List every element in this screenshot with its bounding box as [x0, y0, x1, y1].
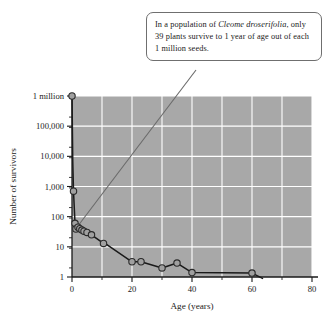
x-tick-label: 60 — [248, 284, 257, 294]
data-point-marker — [69, 93, 75, 99]
x-tick-label: 40 — [188, 284, 197, 294]
y-tick-label: 1 — [60, 272, 64, 282]
y-tick-label: 10,000 — [40, 151, 64, 161]
data-point-marker — [159, 265, 165, 271]
data-point-marker — [249, 270, 255, 276]
y-tick-label: 10 — [55, 242, 64, 252]
data-point-marker — [138, 259, 144, 265]
survivorship-chart: 1101001,00010,000100,0001 million 020406… — [0, 0, 336, 321]
figure-root: In a population of Cleome droserifolia, … — [0, 0, 336, 321]
data-point-marker — [100, 240, 106, 246]
y-axis-ticks — [67, 96, 72, 277]
x-axis-title: Age (years) — [170, 301, 213, 311]
x-tick-label: 80 — [308, 284, 317, 294]
x-tick-label: 0 — [70, 284, 74, 294]
y-axis-tick-labels: 1101001,00010,000100,0001 million — [33, 91, 65, 282]
x-axis-tick-labels: 020406080 — [70, 284, 316, 294]
data-point-marker — [129, 259, 135, 265]
y-tick-label: 1,000 — [45, 182, 64, 192]
data-point-marker — [70, 188, 76, 194]
data-point-marker — [88, 232, 94, 238]
x-tick-label: 20 — [128, 284, 137, 294]
y-tick-label: 1 million — [33, 91, 65, 101]
x-axis-ticks — [72, 277, 312, 282]
y-tick-label: 100 — [51, 212, 64, 222]
y-axis-title: Number of survivors — [8, 148, 18, 225]
data-point-marker — [189, 269, 195, 275]
y-tick-label: 100,000 — [36, 121, 64, 131]
data-point-marker — [174, 260, 180, 266]
